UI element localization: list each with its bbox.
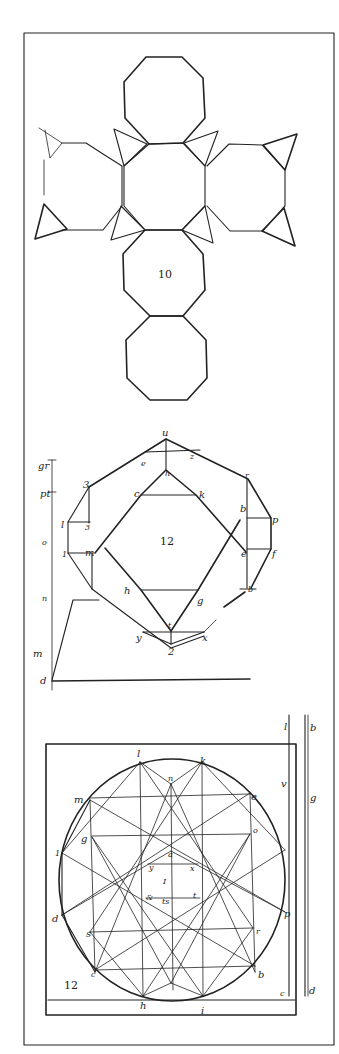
side-label-d: d [309, 985, 315, 996]
label-u: u [162, 427, 168, 438]
panel-dodecagon-construction: u e z h c k 3 r b p l 3 12 m 1 e f h g b… [33, 427, 279, 690]
label-b-upper: b [240, 503, 246, 514]
label-p: p [284, 908, 291, 919]
label-12: 12 [64, 979, 78, 992]
grid-vertical [250, 793, 255, 972]
label-y: y [148, 863, 154, 872]
scale-label-gr: gr [38, 460, 50, 471]
panel-truncated-cube-net: 10 [35, 57, 297, 400]
label-g: g [197, 595, 203, 606]
label-a: a [168, 850, 173, 859]
grid-vertical-center [171, 784, 173, 990]
label-o: o [253, 826, 258, 835]
bottom-left-edge [143, 632, 171, 644]
baseline [52, 679, 250, 681]
label-2: 2 [167, 646, 174, 657]
label-e-top: e [141, 459, 146, 468]
label-k: k [199, 489, 205, 500]
scale-label-o: o [42, 538, 47, 547]
label-d: d [52, 913, 58, 924]
label-3: 3 [83, 479, 89, 490]
triangle-tl [114, 129, 147, 166]
scale-label-pt: pt [40, 488, 51, 499]
label-r: r [245, 471, 250, 480]
label-l: l [61, 519, 64, 530]
triangle-left-bottom [35, 204, 67, 239]
octagon-number-label: 10 [158, 268, 172, 281]
label-ts: ts [162, 897, 169, 906]
side-label-v: v [281, 778, 287, 789]
label-e-right: e [241, 548, 247, 559]
label-c-right: c [280, 989, 285, 998]
grid-horizontal [90, 794, 250, 798]
octagon-top [124, 57, 205, 144]
label-I: I [162, 877, 167, 886]
panel-circle-star-construction: l k n m e g o 1 a y x I & t ts d s r p c… [46, 715, 316, 1016]
scale-label-n: n [42, 594, 47, 603]
label-12: 12 [160, 535, 174, 548]
label-k: k [200, 755, 206, 766]
scale-label-m: m [33, 648, 42, 659]
side-label-b: b [310, 722, 316, 733]
dodecagon-outline-left [68, 487, 204, 648]
grid-vertical [90, 800, 95, 972]
label-f: f [271, 548, 278, 559]
label-h-top: h [165, 469, 170, 478]
bottom-right-tick [204, 620, 216, 632]
label-p-right: p [272, 514, 279, 525]
label-1: 1 [62, 550, 67, 559]
label-x: x [190, 864, 195, 873]
triangle-left-top [39, 128, 62, 158]
octagon-left [62, 143, 122, 230]
label-m: m [74, 794, 83, 805]
outer-frame [24, 33, 334, 1045]
label-e: e [251, 791, 257, 802]
label-r: r [256, 927, 261, 936]
grid-horizontal [90, 928, 253, 932]
label-s: s [86, 928, 91, 939]
label-c: c [134, 488, 140, 499]
label-h-bottom: h [124, 585, 130, 596]
side-label-l: l [284, 721, 287, 732]
label-l: l [137, 748, 140, 759]
scale-label-d: d [40, 675, 46, 686]
triangle-right-top [263, 134, 297, 170]
label-3-inner: 3 [85, 523, 90, 532]
triangle-br [182, 206, 213, 243]
label-1: 1 [55, 849, 60, 858]
diagram-page: 10 [0, 0, 339, 1054]
label-i: i [201, 1005, 204, 1016]
label-n: n [168, 774, 173, 783]
label-b: b [258, 969, 264, 980]
label-b-lower: b [248, 585, 253, 594]
left-stair [52, 600, 99, 680]
octagon-bottom [126, 316, 207, 400]
label-amp: & [146, 893, 153, 902]
label-g: g [81, 833, 87, 844]
label-m: m [85, 547, 94, 558]
grid-horizontal [92, 834, 250, 836]
label-t: t [168, 621, 172, 630]
label-x: x [202, 632, 208, 643]
octagon-center [124, 143, 205, 230]
diagram-canvas: 10 [0, 0, 339, 1054]
label-y: y [135, 632, 142, 643]
label-h: h [140, 1000, 146, 1011]
grid-vertical [202, 762, 203, 996]
side-label-g: g [310, 792, 316, 803]
label-z: z [189, 452, 195, 461]
label-t: t [193, 891, 197, 900]
label-c: c [91, 970, 96, 979]
dodecagon-outline-lower-right [224, 592, 245, 607]
